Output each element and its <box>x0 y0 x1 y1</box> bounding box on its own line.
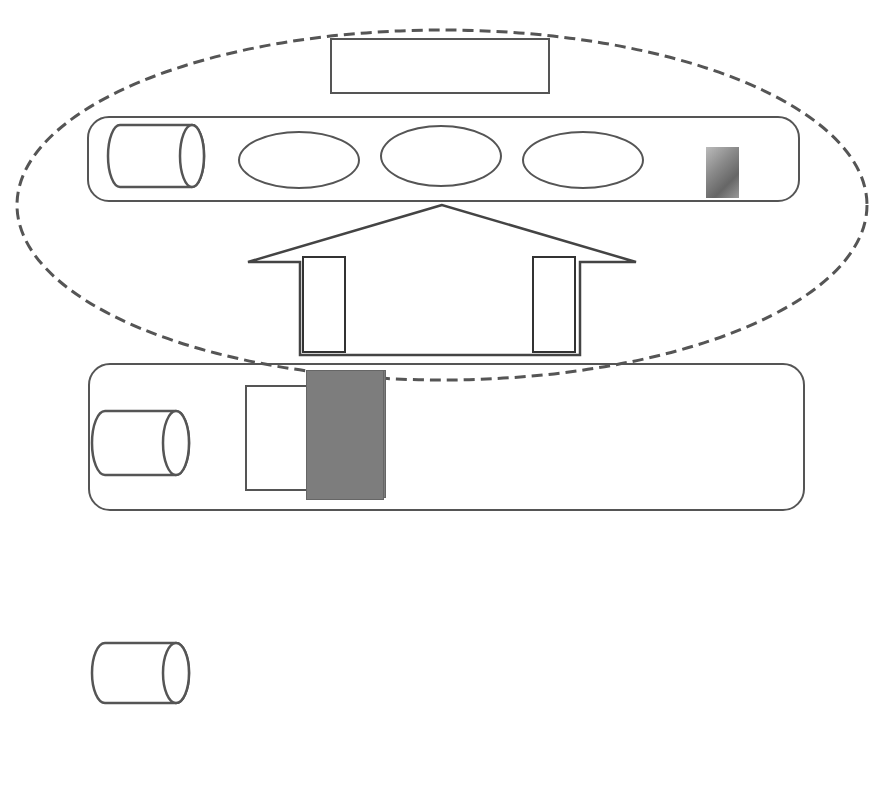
interactive-memory-oval <box>522 131 644 189</box>
visualization-oval <box>238 131 360 189</box>
brain-network-image-icon <box>706 147 739 198</box>
abstract-space-label <box>97 430 177 456</box>
product-dev-title <box>330 38 550 94</box>
abstract-layer-panel <box>88 363 805 511</box>
encoding-cylinder-icon <box>92 643 189 703</box>
social-media-box <box>532 256 576 353</box>
portal-website-box <box>302 256 346 353</box>
immersive-oval <box>380 125 502 187</box>
knowledge-graph-stack <box>306 370 384 500</box>
diffusion-space-label <box>108 143 188 169</box>
